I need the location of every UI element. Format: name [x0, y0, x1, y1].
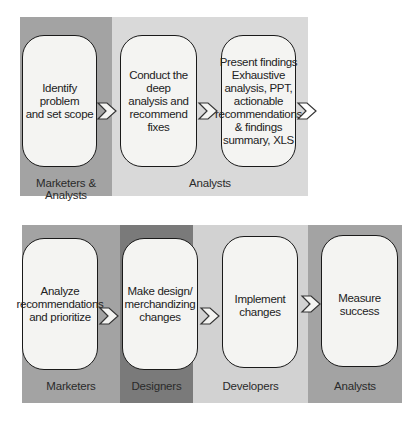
- step-text: Identify problem and set scope: [23, 82, 96, 121]
- step-measure-success: Measure success: [321, 235, 398, 367]
- step-text: Conduct the deep analysis and recommend …: [121, 69, 196, 134]
- band-label: Analysts: [308, 380, 402, 392]
- step-text: Make design/ merchandizing changes: [125, 285, 196, 324]
- step-text: Implement changes: [235, 293, 286, 319]
- step-text: Present findings Exhaustive analysis, PP…: [215, 56, 302, 147]
- step-deep-analysis: Conduct the deep analysis and recommend …: [120, 35, 197, 167]
- chevron-right-icon: [96, 100, 118, 122]
- chevron-right-icon: [98, 305, 120, 327]
- step-identify-problem: Identify problem and set scope: [22, 35, 97, 167]
- step-text: Analyze recommendations and prioritize: [17, 285, 104, 324]
- step-make-design-changes: Make design/ merchandizing changes: [122, 238, 198, 370]
- band-label: Analysts: [112, 177, 308, 189]
- band-label: Marketers: [22, 380, 120, 392]
- chevron-right-icon: [300, 293, 322, 315]
- step-present-findings: Present findings Exhaustive analysis, PP…: [221, 35, 296, 167]
- band-label: Marketers & Analysts: [20, 177, 112, 201]
- band-label: Designers: [120, 380, 193, 392]
- step-implement-changes: Implement changes: [222, 236, 298, 368]
- step-analyze-recommendations: Analyze recommendations and prioritize: [22, 238, 98, 370]
- chevron-right-icon: [199, 305, 221, 327]
- chevron-right-icon: [296, 100, 318, 122]
- band-label: Developers: [193, 380, 308, 392]
- step-text: Measure success: [338, 292, 381, 318]
